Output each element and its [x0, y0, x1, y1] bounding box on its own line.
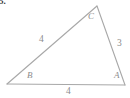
geometry-figure: 5. B C A 4 3 4: [0, 0, 130, 98]
vertex-label-c: C: [88, 12, 94, 21]
side-length-ab: 4: [66, 87, 71, 97]
vertex-label-a: A: [114, 71, 120, 80]
side-bc-line: [7, 6, 97, 84]
side-length-ca: 3: [117, 39, 122, 49]
side-length-bc: 4: [39, 35, 44, 45]
vertex-label-b: B: [27, 71, 33, 80]
side-ab-line: [7, 84, 125, 85]
triangle-shape: [0, 0, 130, 98]
